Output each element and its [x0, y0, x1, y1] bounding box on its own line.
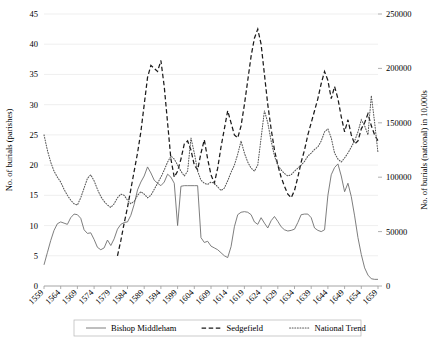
x-axis-tick-label: 1609	[193, 287, 212, 306]
legend-label: National Trend	[315, 323, 367, 333]
x-axis-tick-label: 1579	[93, 287, 112, 306]
y-axis-tick-label: 20	[30, 160, 39, 170]
x-axis-tick-label: 1634	[277, 287, 297, 307]
y-axis-tick-label: 45	[30, 9, 39, 19]
y2-axis-tick-label: 0	[386, 281, 390, 291]
y2-axis-tick-label: 150000	[386, 118, 412, 128]
y-axis-tick-label: 35	[30, 69, 39, 79]
y2-axis-tick-label: 250000	[386, 9, 412, 19]
y-axis-tick-label: 25	[30, 130, 39, 140]
x-axis-tick-label: 1599	[160, 287, 179, 306]
x-axis-tick-label: 1564	[43, 287, 63, 307]
legend-label: Bishop Middleham	[111, 323, 177, 333]
legend-label: Sedgefield	[227, 323, 264, 333]
y-axis-tick-label: 40	[30, 39, 39, 49]
x-axis-tick-label: 1644	[310, 287, 330, 307]
x-axis-tick-label: 1654	[344, 287, 364, 307]
x-axis-tick-label: 1639	[294, 287, 313, 306]
y2-axis-tick-label: 200000	[386, 63, 412, 73]
x-axis-tick-label: 1624	[243, 287, 263, 307]
x-axis-tick-label: 1659	[360, 287, 379, 306]
x-axis-tick-label: 1619	[227, 287, 246, 306]
series-line-sedgefield	[117, 29, 378, 256]
y-axis-tick-label: 30	[30, 100, 39, 110]
x-axis-tick-label: 1569	[60, 287, 79, 306]
y2-axis-tick-label: 100000	[386, 172, 412, 182]
x-axis-tick-label: 1594	[143, 287, 163, 307]
y-axis-title: No. of burials (parishes)	[4, 109, 14, 192]
chart-container: 0510152025303540450500001000001500002000…	[0, 0, 437, 352]
y-axis-tick-label: 15	[30, 190, 39, 200]
x-axis-tick-label: 1559	[26, 287, 45, 306]
x-axis-tick-label: 1604	[177, 287, 197, 307]
x-axis-tick-label: 1574	[76, 287, 96, 307]
x-axis-tick-label: 1589	[127, 287, 146, 306]
y-axis-tick-label: 5	[34, 251, 38, 261]
x-axis-tick-label: 1629	[260, 287, 279, 306]
y-axis-tick-label: 10	[30, 221, 39, 231]
x-axis-tick-label: 1649	[327, 287, 346, 306]
x-axis-tick-label: 1584	[110, 287, 130, 307]
y2-axis-title: No. of burials (national) in 10,000s	[419, 90, 429, 210]
y2-axis-tick-label: 50000	[386, 227, 407, 237]
series-line-national-trend	[44, 96, 378, 208]
x-axis-tick-label: 1614	[210, 287, 230, 307]
line-chart: 0510152025303540450500001000001500002000…	[0, 0, 437, 352]
